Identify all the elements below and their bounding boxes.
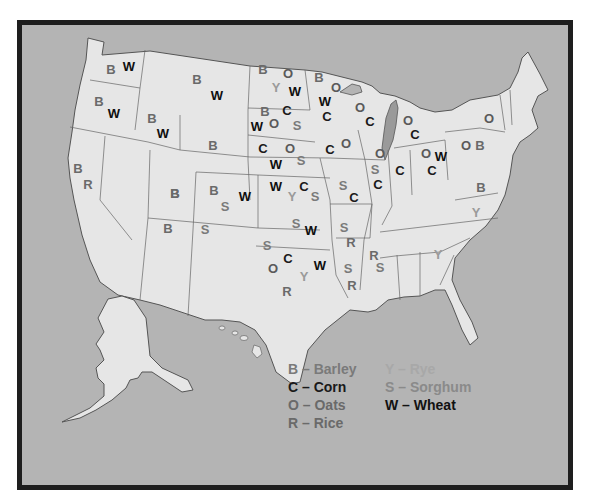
crop-label: S: [371, 163, 380, 176]
crop-label: Y: [300, 270, 309, 283]
crop-label: S: [376, 261, 385, 274]
crop-label: Y: [472, 206, 481, 219]
legend-item-sorghum: S – Sorghum: [385, 378, 495, 396]
crop-label: O: [268, 262, 278, 275]
crop-label: O: [341, 137, 351, 150]
crop-label: Y: [272, 81, 281, 94]
legend: B – Barley C – Corn O – Oats R – Rice: [288, 360, 378, 432]
crop-label: O: [421, 147, 431, 160]
crop-label: S: [339, 179, 348, 192]
crop-label: B: [314, 71, 323, 84]
crop-label: C: [395, 164, 404, 177]
crop-label: B: [163, 222, 172, 235]
crop-label: O: [285, 142, 295, 155]
crop-label: R: [346, 236, 355, 249]
crop-label: R: [347, 279, 356, 292]
crop-label: W: [319, 95, 331, 108]
hawaii-island-2: [232, 331, 238, 335]
crop-label: W: [211, 89, 223, 102]
crop-label: O: [461, 139, 471, 152]
crop-label: O: [375, 147, 385, 160]
crop-label: Y: [434, 248, 443, 261]
crop-label: O: [269, 117, 279, 130]
crop-label: B: [170, 187, 179, 200]
crop-label: B: [147, 112, 156, 125]
hawaii-island-3: [240, 336, 248, 341]
crop-label: O: [331, 81, 341, 94]
crop-label: W: [305, 224, 317, 237]
crop-label: R: [83, 178, 92, 191]
crop-label: W: [157, 127, 169, 140]
crop-label: B: [208, 139, 217, 152]
crop-label: W: [435, 150, 447, 163]
crop-label: W: [270, 158, 282, 171]
crop-label: S: [297, 154, 306, 167]
crop-label: W: [108, 107, 120, 120]
crop-label: B: [475, 139, 484, 152]
legend-item-oats: O – Oats: [288, 396, 378, 414]
crop-label: S: [263, 239, 272, 252]
crop-label: B: [106, 63, 115, 76]
crop-label: W: [251, 120, 263, 133]
crop-label: B: [209, 184, 218, 197]
crop-label: Y: [288, 190, 297, 203]
crop-label: O: [403, 114, 413, 127]
crop-label: B: [476, 181, 485, 194]
crop-label: W: [270, 180, 282, 193]
legend-item-corn: C – Corn: [288, 378, 378, 396]
crop-label: B: [192, 73, 201, 86]
crop-label: C: [282, 104, 291, 117]
crop-label: S: [292, 217, 301, 230]
crop-label: O: [355, 101, 365, 114]
legend-item-rice: R – Rice: [288, 414, 378, 432]
crop-label: C: [349, 191, 358, 204]
crop-label: R: [282, 285, 291, 298]
crop-label: C: [365, 115, 374, 128]
crop-label: W: [289, 85, 301, 98]
legend-item-rye: Y – Rye: [385, 360, 495, 378]
crop-label: C: [325, 143, 334, 156]
hawaii-island-1: [219, 326, 225, 330]
crop-label: C: [258, 142, 267, 155]
crop-label: C: [373, 178, 382, 191]
crop-label: C: [322, 110, 331, 123]
crop-label: S: [221, 200, 230, 213]
crop-label: B: [94, 95, 103, 108]
crop-label: S: [201, 223, 210, 236]
crop-label: B: [258, 63, 267, 76]
crop-label: C: [283, 252, 292, 265]
legend-column-2: Y – Rye S – Sorghum W – Wheat: [385, 360, 495, 414]
crop-label: C: [410, 128, 419, 141]
crop-label: W: [123, 60, 135, 73]
alaska: [62, 296, 193, 422]
hawaii-big-island: [252, 345, 262, 358]
crop-label: S: [311, 190, 320, 203]
legend-item-wheat: W – Wheat: [385, 396, 495, 414]
legend-item-barley: B – Barley: [288, 360, 378, 378]
crop-label: O: [283, 67, 293, 80]
crop-label: S: [340, 221, 349, 234]
crop-label: W: [239, 190, 251, 203]
crop-label: O: [484, 112, 494, 125]
crop-label: W: [314, 259, 326, 272]
crop-label: C: [427, 164, 436, 177]
crop-label: B: [73, 162, 82, 175]
crop-label: S: [344, 262, 353, 275]
crop-label: S: [293, 119, 302, 132]
crop-label: C: [299, 180, 308, 193]
